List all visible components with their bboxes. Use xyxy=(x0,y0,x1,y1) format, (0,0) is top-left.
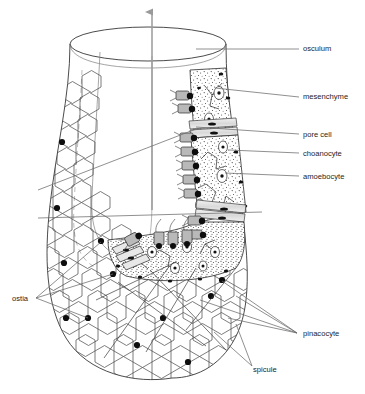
sponge-diagram-figure: osculum mesenchyme pore cell choanocyte … xyxy=(0,0,365,394)
ostium-dot xyxy=(185,359,191,365)
label-pore-cell: pore cell xyxy=(303,130,332,139)
label-choanocyte: choanocyte xyxy=(303,149,342,158)
label-osculum: osculum xyxy=(303,44,331,53)
ostium-dot xyxy=(98,238,104,244)
ostium-dot xyxy=(63,315,69,321)
ostium-dot xyxy=(134,342,140,348)
label-mesenchyme: mesenchyme xyxy=(303,92,348,101)
label-ostia: ostia xyxy=(12,294,29,303)
sponge-diagram-canvas: osculum mesenchyme pore cell choanocyte … xyxy=(0,0,365,394)
label-spicule: spicule xyxy=(253,365,277,374)
ostium-dot xyxy=(54,205,60,211)
label-amoebocyte: amoebocyte xyxy=(303,172,344,181)
label-pinacocyte: pinacocyte xyxy=(303,329,339,338)
ostium-dot xyxy=(61,260,67,266)
ostium-dot xyxy=(59,139,65,145)
